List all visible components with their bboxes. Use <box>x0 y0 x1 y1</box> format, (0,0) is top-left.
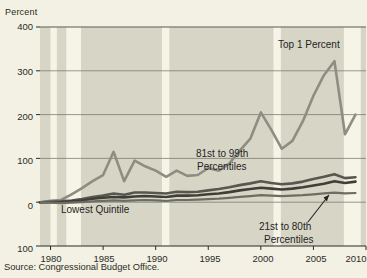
ytick-label-300: 300 <box>17 66 33 77</box>
xtick-label-2000: 2000 <box>252 253 273 264</box>
recession-band <box>51 27 57 246</box>
annotation-top-1-percent: Top 1 Percent <box>278 39 340 50</box>
annotation-81st-99th-line2: Percentiles <box>197 161 246 172</box>
xtick-label-2010: 2010 <box>345 253 366 264</box>
recession-band <box>162 27 169 246</box>
annotation-21st-80th-line1: 21st to 80th <box>259 221 311 232</box>
annotation-lowest-quintile: Lowest Quintile <box>61 204 130 215</box>
chart-figure: Percent 400 300 200 100 0 100 1980 1985 … <box>0 0 367 278</box>
annotation-81st-99th-line1: 81st to 99th <box>196 148 248 159</box>
recession-band <box>344 27 361 246</box>
ytick-label-minus-100: 100 <box>17 243 33 254</box>
ytick-label-100: 100 <box>17 155 33 166</box>
source-note: Source: Congressional Budget Office. <box>4 262 159 272</box>
chart-plot-area: 400 300 200 100 0 100 1980 1985 1990 199… <box>0 0 367 278</box>
ytick-label-0: 0 <box>28 200 33 211</box>
ytick-label-200: 200 <box>17 111 33 122</box>
xtick-label-2005: 2005 <box>305 253 326 264</box>
xtick-label-1995: 1995 <box>199 253 220 264</box>
annotation-21st-80th-line2: Percentiles <box>264 234 313 245</box>
ytick-label-400: 400 <box>17 21 33 32</box>
